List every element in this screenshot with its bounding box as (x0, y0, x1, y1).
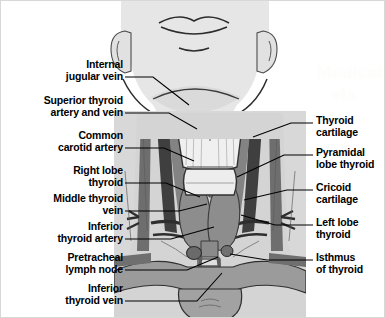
label-line: Superior thyroid (11, 94, 123, 106)
label-line: thyroid artery (23, 232, 123, 244)
label-inferior-thyroid-vein: Inferiorthyroid vein (23, 282, 123, 306)
label-line: Pyramidal (316, 146, 385, 158)
label-line: Right lobe (31, 164, 123, 176)
label-pyramidal-lobe-thyroid: Pyramidallobe thyroid (316, 146, 385, 170)
label-right-lobe-thyroid: Right lobethyroid (31, 164, 123, 188)
label-line: Cricoid (316, 181, 385, 193)
label-line: thyroid vein (23, 294, 123, 306)
label-line: Pretracheal (23, 251, 123, 263)
label-internal-jugular-vein: Internaljugular vein (23, 58, 123, 82)
label-line: cartilage (316, 126, 385, 138)
pretracheal-lymph-node-oval (187, 247, 202, 260)
label-line: thyroid (31, 176, 123, 188)
isthmus-of-thyroid-band (201, 241, 218, 257)
paratracheal-lymph-node-oval (221, 246, 233, 257)
label-line: cartilage (316, 193, 385, 205)
label-line: jugular vein (23, 70, 123, 82)
label-left-lobe-thyroid: Left lobethyroid (316, 216, 385, 240)
label-pretracheal-lymph-node: Pretracheallymph node (23, 251, 123, 275)
label-cricoid-cartilage: Cricoidcartilage (316, 181, 385, 205)
label-line: thyroid (316, 228, 385, 240)
label-line: Isthmus (316, 251, 385, 263)
label-line: Thyroid (316, 114, 385, 126)
label-middle-thyroid-vein: Middle thyroidvein (23, 192, 123, 216)
aortic-arch (179, 289, 242, 318)
thyroid-anatomy-figure: Medical ela Internaljugular veinSuperior… (0, 0, 385, 318)
label-isthmus-of-thyroid: Isthmusof thyroid (316, 251, 385, 275)
label-superior-thyroid-artery-and-vein: Superior thyroidartery and vein (11, 94, 123, 118)
label-line: Inferior (23, 282, 123, 294)
label-line: Middle thyroid (23, 192, 123, 204)
label-inferior-thyroid-artery: Inferiorthyroid artery (23, 220, 123, 244)
label-line: lobe thyroid (316, 158, 385, 170)
label-line: Left lobe (316, 216, 385, 228)
label-line: vein (23, 204, 123, 216)
label-line: carotid artery (23, 141, 123, 153)
label-line: Inferior (23, 220, 123, 232)
label-line: Internal (23, 58, 123, 70)
label-line: lymph node (23, 263, 123, 275)
label-thyroid-cartilage: Thyroidcartilage (316, 114, 385, 138)
label-line: of thyroid (316, 263, 385, 275)
label-line: Common (23, 129, 123, 141)
cricoid-cartilage-ring (184, 169, 237, 195)
label-line: artery and vein (11, 106, 123, 118)
label-common-carotid-artery: Commoncarotid artery (23, 129, 123, 153)
